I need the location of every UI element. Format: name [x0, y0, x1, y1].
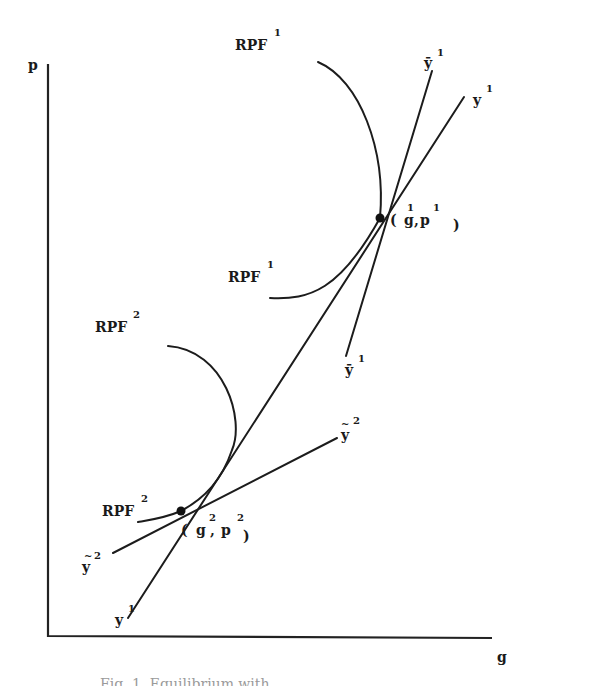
figure-caption: Fig. 1. Equilibrium with ... [100, 676, 500, 686]
svg-text:,: , [210, 522, 215, 538]
svg-text:y: y [81, 559, 91, 575]
svg-text:p: p [420, 212, 430, 228]
svg-text:1: 1 [407, 202, 414, 213]
y-axis-label: p [28, 57, 38, 73]
svg-text:1: 1 [433, 202, 440, 213]
label-rpf1-top: RPF 1 [235, 27, 281, 53]
svg-text:1: 1 [486, 83, 493, 94]
svg-text:2: 2 [94, 550, 101, 561]
label-rpf2-top: RPF 2 [95, 309, 140, 335]
curve-rpf1-lower [270, 218, 380, 298]
label-point-g1-p1: ( g 1 , p 1 ) [390, 202, 460, 233]
svg-text:y: y [114, 612, 124, 628]
svg-text:1: 1 [128, 603, 135, 614]
svg-text:g: g [196, 522, 206, 538]
equilibrium-diagram: p g RPF 1 RPF 1 RPF 2 RPF 2 ȳ 1 y 1 ȳ 1 … [0, 0, 594, 686]
svg-text:ȳ: ȳ [344, 362, 354, 378]
label-y1-top: y 1 [472, 83, 493, 108]
curve-rpf2-upper [168, 346, 236, 511]
svg-text:1: 1 [437, 47, 444, 58]
svg-text:): ) [243, 528, 250, 544]
svg-text:ȳ: ȳ [423, 55, 433, 71]
svg-text:2: 2 [141, 493, 148, 504]
svg-text:y: y [472, 92, 482, 108]
label-y1-bottom: y 1 [114, 603, 135, 628]
svg-text:RPF: RPF [228, 269, 260, 285]
label-rpf1-mid: RPF 1 [228, 259, 274, 285]
point-g2-p2 [177, 507, 186, 516]
point-g1-p1 [376, 214, 385, 223]
curve-rpf1-upper [318, 62, 381, 218]
svg-text:1: 1 [267, 259, 274, 270]
svg-text:(: ( [181, 522, 188, 538]
label-ybar1-bottom: ȳ 1 [344, 353, 365, 378]
label-ybar1-top: ȳ 1 [423, 47, 444, 71]
svg-text:RPF: RPF [102, 503, 134, 519]
svg-text:g: g [404, 212, 414, 228]
svg-text:RPF: RPF [95, 319, 127, 335]
svg-text:RPF: RPF [235, 37, 267, 53]
label-point-g2-p2: ( g 2 , p 2 ) [181, 512, 250, 544]
svg-text:2: 2 [133, 309, 140, 320]
svg-text:2: 2 [237, 512, 244, 523]
svg-text:2: 2 [353, 415, 360, 426]
svg-text:p: p [221, 522, 231, 538]
svg-text:y: y [340, 427, 350, 443]
line-y1 [128, 97, 464, 618]
label-ytilde2-top: ~ y 2 [340, 415, 360, 443]
svg-text:1: 1 [274, 27, 281, 38]
label-rpf2-bottom: RPF 2 [102, 493, 148, 519]
svg-text:(: ( [390, 212, 397, 228]
svg-text:): ) [453, 217, 460, 233]
svg-text:,: , [414, 212, 419, 228]
label-ytilde2-bottom: ~ y 2 [81, 550, 101, 575]
svg-text:1: 1 [358, 353, 365, 364]
x-axis-label: g [497, 649, 507, 665]
